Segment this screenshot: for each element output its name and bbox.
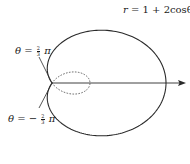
denominator: 3 — [37, 52, 40, 57]
ray-label-upper: θ = 2 3 π — [15, 46, 51, 57]
fraction: 2 3 — [41, 114, 44, 125]
pi-symbol: π — [44, 45, 51, 56]
ray-upper — [39, 57, 52, 83]
curve-label-rhs: 1 + 2cosθ — [143, 4, 190, 15]
theta-symbol: θ — [15, 45, 21, 56]
ray-label-lower: θ = − 2 3 π — [8, 114, 55, 125]
pi-symbol: π — [49, 113, 56, 124]
curve-equation-label: r = 1 + 2cosθ — [123, 5, 190, 15]
denominator: 3 — [41, 120, 44, 125]
limacon-figure — [0, 0, 190, 164]
equals-sign: = — [131, 4, 143, 15]
ray-lower — [39, 83, 52, 108]
fraction: 2 3 — [37, 46, 40, 57]
equals-sign: = — [17, 113, 29, 124]
equals-sign: = — [24, 45, 36, 56]
curve-label-lhs: r — [123, 4, 128, 15]
sign: − — [29, 113, 37, 124]
theta-symbol: θ — [8, 113, 14, 124]
